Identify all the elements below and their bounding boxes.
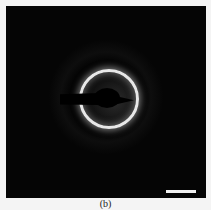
scale-bar [166,190,196,193]
beam-stop-head [94,88,120,108]
diffraction-image [6,6,206,198]
figure-caption: (b) [0,198,211,210]
